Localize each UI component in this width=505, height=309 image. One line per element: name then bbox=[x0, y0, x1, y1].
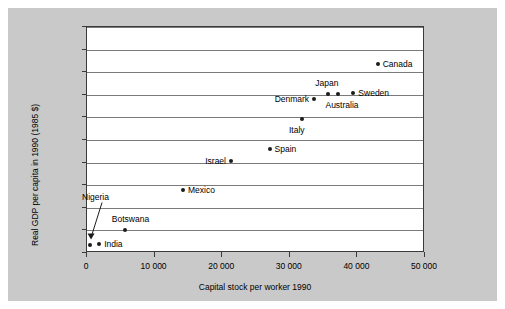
gridline bbox=[87, 230, 423, 231]
point-label: Mexico bbox=[188, 185, 215, 195]
scatter-chart: Real GDP per capita in 1990 (1985 $) 020… bbox=[0, 0, 505, 309]
data-point bbox=[336, 92, 340, 96]
data-point bbox=[123, 228, 127, 232]
x-tick-mark bbox=[424, 252, 425, 257]
x-tick-mark bbox=[356, 252, 357, 257]
point-label: Botswana bbox=[112, 214, 149, 224]
data-point bbox=[181, 188, 185, 192]
data-point bbox=[376, 62, 380, 66]
data-point bbox=[229, 159, 233, 163]
gridline bbox=[87, 50, 423, 51]
data-point bbox=[351, 91, 355, 95]
gridline bbox=[87, 140, 423, 141]
point-label: Australia bbox=[325, 100, 358, 110]
plot-area: NigeriaIndiaBotswanaMexicoIsraelSpainIta… bbox=[86, 26, 424, 252]
gridline bbox=[87, 72, 423, 73]
point-label: Japan bbox=[315, 78, 338, 88]
y-axis-title: Real GDP per capita in 1990 (1985 $) bbox=[30, 104, 40, 246]
point-label: Nigeria bbox=[82, 192, 109, 202]
point-label: Italy bbox=[289, 125, 305, 135]
point-label: Denmark bbox=[275, 94, 309, 104]
point-label: Canada bbox=[383, 59, 413, 69]
data-point bbox=[326, 92, 330, 96]
x-tick-label: 40 000 bbox=[343, 261, 369, 271]
x-tick-mark bbox=[289, 252, 290, 257]
x-tick-mark bbox=[86, 252, 87, 257]
x-tick-label: 30 000 bbox=[276, 261, 302, 271]
gridline bbox=[87, 117, 423, 118]
x-tick-label: 0 bbox=[84, 261, 89, 271]
data-point bbox=[88, 243, 92, 247]
point-label: Israel bbox=[205, 156, 226, 166]
chart-screenshot: Real GDP per capita in 1990 (1985 $) 020… bbox=[0, 0, 505, 309]
gridline bbox=[87, 163, 423, 164]
x-tick-mark bbox=[154, 252, 155, 257]
x-tick-label: 50 000 bbox=[411, 261, 437, 271]
point-label: Sweden bbox=[358, 88, 389, 98]
x-tick-label: 20 000 bbox=[208, 261, 234, 271]
point-label: India bbox=[104, 239, 122, 249]
gridline bbox=[87, 27, 423, 28]
x-tick-label: 10 000 bbox=[141, 261, 167, 271]
data-point bbox=[268, 147, 272, 151]
data-point bbox=[97, 242, 101, 246]
gridline bbox=[87, 208, 423, 209]
data-point bbox=[300, 117, 304, 121]
point-label: Spain bbox=[275, 144, 297, 154]
gridline bbox=[87, 185, 423, 186]
x-axis-title: Capital stock per worker 1990 bbox=[199, 282, 311, 292]
data-point bbox=[312, 97, 316, 101]
x-tick-mark bbox=[221, 252, 222, 257]
